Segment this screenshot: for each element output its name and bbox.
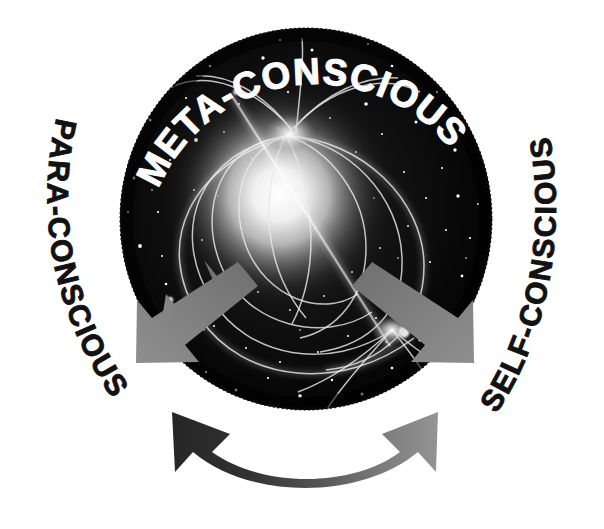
- label-meta-conscious: META-CONSCIOUS: [129, 51, 476, 193]
- labels-layer: META-CONSCIOUS PARA-CONSCIOUS SELF-CONSC…: [0, 0, 604, 529]
- label-para-conscious: PARA-CONSCIOUS: [41, 116, 135, 403]
- label-self-conscious: SELF-CONSCIOUS: [473, 134, 562, 417]
- diagram-canvas: META-CONSCIOUS PARA-CONSCIOUS SELF-CONSC…: [0, 0, 604, 529]
